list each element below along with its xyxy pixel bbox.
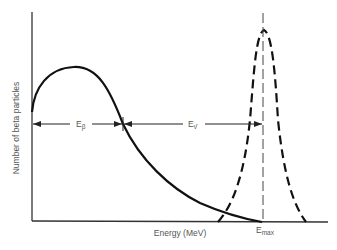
x-axis xyxy=(32,221,328,222)
emax-label: Emax xyxy=(256,225,275,236)
y-axis-label: Number of beta particles xyxy=(11,82,21,175)
ebeta-label: Eβ xyxy=(76,119,86,131)
beta-spectrum-chart: Eβ Eν̄ Number of beta particles Energy (… xyxy=(0,0,337,250)
enu-label: Eν̄ xyxy=(188,119,198,130)
x-axis-label: Energy (MeV) xyxy=(154,228,207,238)
dashed-peak-curve xyxy=(218,30,306,222)
beta-spectrum-curve xyxy=(32,67,262,222)
